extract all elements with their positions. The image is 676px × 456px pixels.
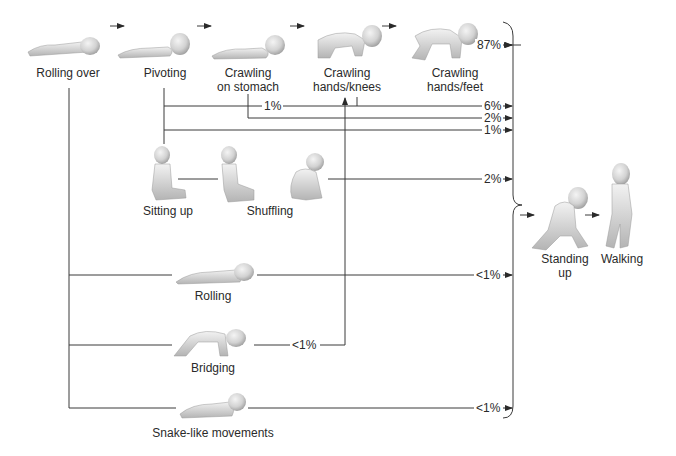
pct-pivot-direct: 1% — [482, 124, 503, 136]
label-crawling-stomach-line2: on stomach — [217, 80, 279, 94]
label-sitting-up: Sitting up — [143, 204, 193, 218]
label-standing-up: Standing up — [541, 252, 588, 280]
baby-snake-like-figure — [180, 393, 246, 418]
label-snake-like: Snake-like movements — [152, 426, 273, 440]
label-pivoting: Pivoting — [144, 66, 187, 80]
label-crawling-hands-feet-line1: Crawling — [427, 66, 483, 80]
pct-bridging: <1% — [290, 339, 318, 351]
label-crawling-stomach: Crawling on stomach — [217, 66, 279, 94]
baby-pivoting-figure — [118, 33, 190, 58]
label-crawling-hands-knees-line2: hands/knees — [313, 80, 381, 94]
label-crawling-stomach-line1: Crawling — [217, 66, 279, 80]
baby-shuffling-figure-2 — [291, 153, 324, 200]
locomotion-diagram: Rolling over Pivoting Crawling on stomac… — [0, 0, 676, 456]
baby-crawling-stomach-figure — [212, 35, 285, 59]
label-crawling-hands-feet-line2: hands/feet — [427, 80, 483, 94]
label-crawling-hands-feet: Crawling hands/feet — [427, 66, 483, 94]
baby-crawling-hands-knees-figure — [318, 25, 382, 58]
label-standing-up-line1: Standing — [541, 252, 588, 266]
pct-rolling: <1% — [474, 269, 502, 281]
label-crawling-hands-knees: Crawling hands/knees — [313, 66, 381, 94]
baby-standing-up-figure — [532, 187, 588, 250]
baby-rolling-over-figure — [28, 37, 100, 56]
baby-crawling-hands-feet-figure — [412, 23, 478, 60]
label-shuffling: Shuffling — [247, 204, 293, 218]
pct-snake: <1% — [474, 402, 502, 414]
label-bridging: Bridging — [191, 361, 235, 375]
pct-pivot-to-hands-knees: 1% — [262, 100, 283, 112]
label-crawling-hands-knees-line1: Crawling — [313, 66, 381, 80]
baby-bridging-figure — [174, 329, 246, 356]
label-rolling-over: Rolling over — [36, 66, 99, 80]
baby-shuffling-figure-1 — [221, 146, 254, 202]
pct-shuffling: 2% — [482, 173, 503, 185]
baby-rolling-figure — [176, 263, 254, 284]
baby-walking-figure — [606, 163, 632, 248]
label-rolling: Rolling — [195, 289, 232, 303]
label-standing-up-line2: up — [541, 266, 588, 280]
baby-sitting-up-figure — [152, 146, 186, 200]
label-walking: Walking — [601, 252, 643, 266]
pct-hands-feet: 87% — [475, 39, 503, 51]
